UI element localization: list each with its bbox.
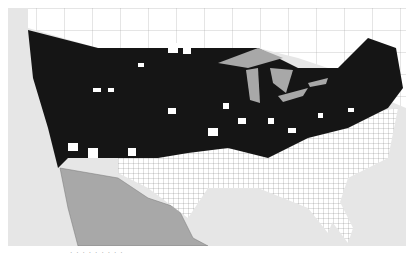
county-map (8, 8, 406, 246)
caption: · · · · · · · · · (70, 249, 124, 257)
